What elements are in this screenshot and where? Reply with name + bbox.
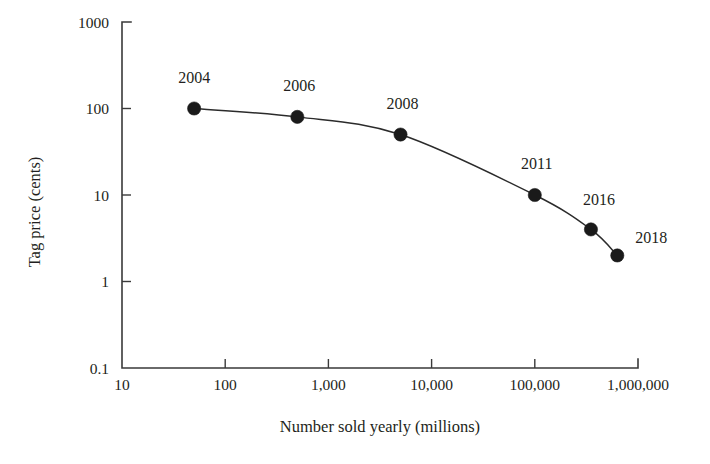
- point-label-2008: 2008: [387, 95, 419, 112]
- data-point-2016: [584, 223, 597, 236]
- y-tick-label-1: 1: [101, 273, 109, 290]
- data-point-2008: [394, 128, 407, 141]
- x-axis-title: Number sold yearly (millions): [280, 417, 480, 436]
- y-axis-ticks: [122, 109, 131, 282]
- chart-figure: Tag price (cents) Number sold yearly (mi…: [0, 0, 710, 464]
- x-tick-label-10000: 10,000: [410, 376, 453, 393]
- log-log-line-chart: Tag price (cents) Number sold yearly (mi…: [0, 0, 710, 464]
- x-tick-label-1000000: 1,000,000: [607, 376, 669, 393]
- y-tick-label-100: 100: [86, 100, 110, 117]
- y-tick-label-1000: 1000: [78, 14, 109, 31]
- point-label-2006: 2006: [283, 77, 315, 94]
- data-point-2011: [528, 188, 541, 201]
- data-point-labels: 200420062008201120162018: [178, 69, 667, 247]
- x-tick-label-10: 10: [114, 376, 130, 393]
- data-point-2006: [291, 110, 304, 123]
- x-axis-ticks: [225, 359, 535, 368]
- point-label-2016: 2016: [583, 191, 615, 208]
- x-axis-tick-labels: 101001,00010,000100,0001,000,000: [114, 376, 669, 393]
- x-tick-label-100: 100: [214, 376, 238, 393]
- x-tick-label-1000: 1,000: [311, 376, 346, 393]
- data-point-markers: [188, 102, 624, 262]
- y-tick-label-10: 10: [94, 187, 110, 204]
- point-label-2011: 2011: [521, 155, 552, 172]
- y-tick-label-0.1: 0.1: [90, 360, 109, 377]
- point-label-2018: 2018: [635, 229, 667, 246]
- data-point-2004: [188, 102, 201, 115]
- x-tick-label-100000: 100,000: [510, 376, 561, 393]
- data-point-2018: [611, 249, 624, 262]
- point-label-2004: 2004: [178, 69, 210, 86]
- y-axis-tick-labels: 10001001010.1: [78, 14, 109, 377]
- y-axis-title: Tag price (cents): [25, 157, 44, 268]
